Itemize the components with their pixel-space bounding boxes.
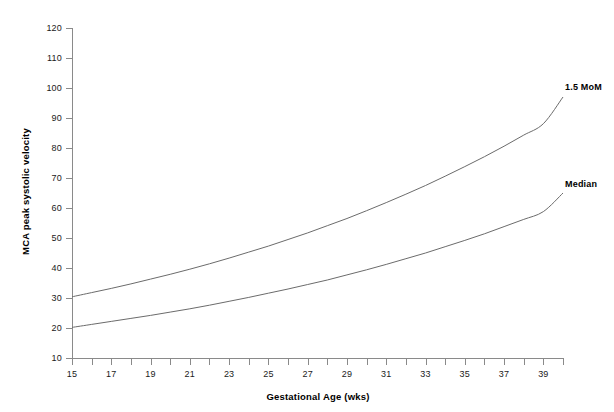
series-line-1-5-mom — [72, 97, 563, 297]
plot-area — [0, 0, 614, 412]
series-label-median: Median — [565, 179, 597, 189]
series-line-median — [72, 193, 563, 327]
x-axis-title: Gestational Age (wks) — [72, 391, 564, 402]
y-axis-title: MCA peak systolic velocity — [20, 92, 31, 292]
series-label-1-5-mom: 1.5 MoM — [565, 82, 602, 92]
chart-container: 102030405060708090100110120 151719212325… — [0, 0, 614, 412]
